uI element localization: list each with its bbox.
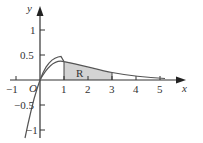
x-axis-label: x	[181, 82, 187, 94]
region-label: R	[76, 67, 84, 79]
x-tick-label-2: 2	[85, 83, 91, 95]
function-graph: y x O R −1 1 2 3 4 5 1 0.5 −0.5 −1	[0, 0, 203, 143]
x-tick-label-neg1: −1	[6, 83, 18, 95]
x-tick-label-4: 4	[133, 83, 139, 95]
y-tick-label-0-5: 0.5	[20, 49, 34, 61]
x-tick-label-3: 3	[109, 83, 115, 95]
x-tick-label-5: 5	[157, 83, 163, 95]
origin-label: O	[29, 82, 37, 94]
x-tick-label-1: 1	[61, 83, 67, 95]
y-tick-label-neg1: −1	[26, 124, 38, 136]
y-axis-label: y	[26, 2, 32, 14]
y-tick-label-neg0-5: −0.5	[14, 99, 34, 111]
y-axis-arrow-icon	[37, 6, 44, 16]
y-tick-label-1: 1	[30, 24, 36, 36]
